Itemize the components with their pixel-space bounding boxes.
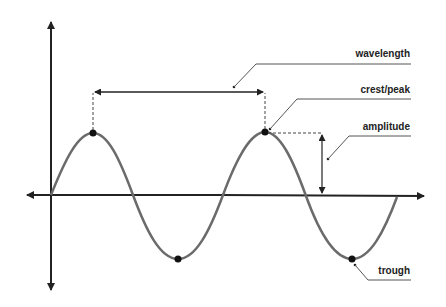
trough-label: trough	[378, 265, 410, 276]
x-axis	[27, 195, 424, 196]
wave-diagram: wavelength crest/peak amplitude trough	[0, 0, 446, 307]
wavelength-label: wavelength	[355, 48, 410, 59]
amplitude-label: amplitude	[363, 121, 411, 132]
amplitude-annotation: amplitude	[327, 121, 411, 160]
wavelength-measure	[93, 92, 265, 130]
amplitude-measure	[268, 133, 322, 193]
crest-point-1	[90, 130, 97, 137]
crest-point-2	[262, 129, 269, 136]
wavelength-annotation: wavelength	[233, 48, 411, 88]
trough-point-1	[175, 256, 182, 263]
trough-point-2	[349, 256, 356, 263]
crest-label: crest/peak	[361, 84, 411, 95]
trough-annotation: trough	[354, 264, 411, 280]
